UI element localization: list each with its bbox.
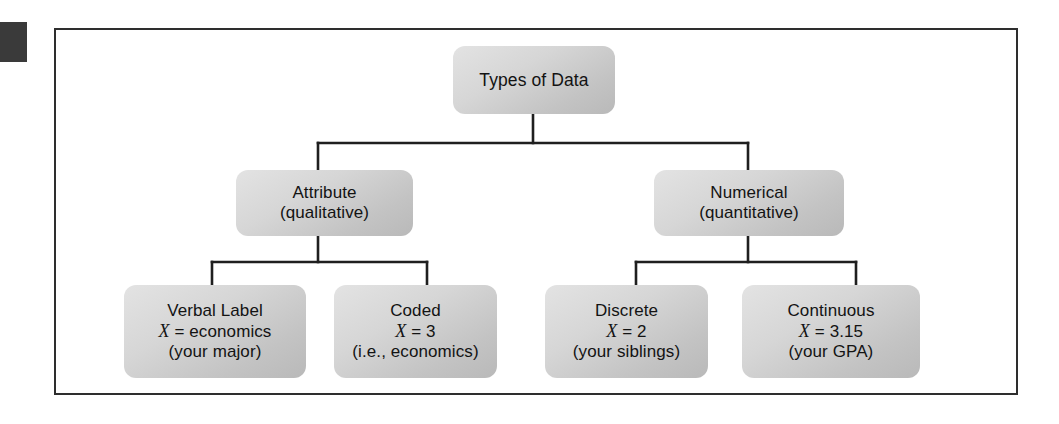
variable-value: 3 bbox=[426, 322, 436, 341]
node-coded-title: Coded bbox=[390, 301, 441, 321]
figure-page: Types of Data Attribute (qualitative) Nu… bbox=[0, 0, 1059, 424]
node-discrete-example: X = 2 bbox=[606, 321, 646, 342]
node-continuous-title: Continuous bbox=[787, 301, 874, 321]
equals-sign: = bbox=[411, 322, 421, 341]
variable-symbol-x: X bbox=[159, 321, 170, 341]
node-attribute: Attribute (qualitative) bbox=[236, 170, 413, 236]
node-continuous-note: (your GPA) bbox=[789, 342, 874, 362]
node-discrete-note: (your siblings) bbox=[573, 342, 680, 362]
node-attribute-label: Attribute bbox=[292, 183, 356, 203]
variable-symbol-x: X bbox=[799, 321, 810, 341]
node-coded-example: X = 3 bbox=[395, 321, 435, 342]
node-continuous: Continuous X = 3.15 (your GPA) bbox=[742, 285, 920, 378]
equals-sign: = bbox=[174, 322, 184, 341]
node-coded: Coded X = 3 (i.e., economics) bbox=[334, 285, 497, 378]
equals-sign: = bbox=[622, 322, 632, 341]
node-numerical-sublabel: (quantitative) bbox=[699, 203, 799, 223]
variable-value: economics bbox=[189, 322, 271, 341]
scan-edge-artifact bbox=[0, 22, 27, 62]
node-verbal-label-title: Verbal Label bbox=[167, 301, 263, 321]
node-types-of-data: Types of Data bbox=[453, 46, 615, 114]
node-verbal-label: Verbal Label X = economics (your major) bbox=[124, 285, 306, 378]
node-continuous-example: X = 3.15 bbox=[799, 321, 863, 342]
variable-value: 2 bbox=[637, 322, 647, 341]
node-verbal-label-example: X = economics bbox=[159, 321, 272, 342]
equals-sign: = bbox=[815, 322, 825, 341]
node-coded-note: (i.e., economics) bbox=[352, 342, 478, 362]
node-numerical-label: Numerical bbox=[710, 183, 787, 203]
node-attribute-sublabel: (qualitative) bbox=[280, 203, 369, 223]
node-discrete-title: Discrete bbox=[595, 301, 658, 321]
node-types-of-data-label: Types of Data bbox=[479, 70, 588, 91]
variable-symbol-x: X bbox=[606, 321, 617, 341]
variable-symbol-x: X bbox=[395, 321, 406, 341]
node-numerical: Numerical (quantitative) bbox=[654, 170, 844, 236]
node-verbal-label-note: (your major) bbox=[169, 342, 262, 362]
variable-value: 3.15 bbox=[830, 322, 864, 341]
node-discrete: Discrete X = 2 (your siblings) bbox=[545, 285, 708, 378]
